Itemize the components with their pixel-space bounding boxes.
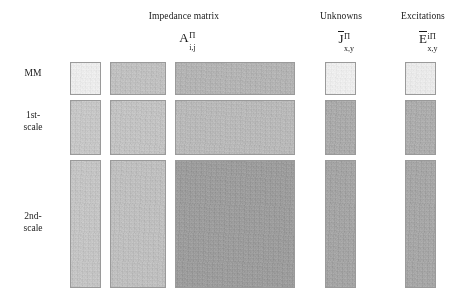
symbol-base: J <box>338 31 343 45</box>
block-texture <box>326 63 355 94</box>
block-texture <box>176 161 294 287</box>
column-header-label: Unknowns <box>301 12 381 22</box>
column-header-label: Impedance matrix <box>104 12 264 22</box>
block-texture <box>71 63 100 94</box>
symbol-base: A <box>179 30 188 45</box>
symbol-superscript: iΠ <box>427 32 436 41</box>
block-texture <box>326 161 355 287</box>
matrix-block-mm-a-1 <box>70 62 101 95</box>
matrix-block-s2-a-1 <box>70 160 101 288</box>
row-label-mm: MM <box>2 68 64 80</box>
block-texture <box>176 63 294 94</box>
symbol-base: E <box>419 31 427 45</box>
symbol-superscript: Π <box>344 32 350 41</box>
block-texture <box>406 101 435 154</box>
column-header-label: Excitations <box>381 12 465 22</box>
matrix-block-s2-a-3 <box>175 160 295 288</box>
block-texture <box>71 101 100 154</box>
symbol-a-pi-ij: AΠi,j <box>179 31 188 45</box>
matrix-block-s2-a-2 <box>110 160 166 288</box>
column-header-excitations: Excitations EiΠx,y <box>381 12 465 46</box>
matrix-block-s2-e <box>405 160 436 288</box>
symbol-j-bar-pi-xy: JΠx,y <box>338 31 343 46</box>
block-texture <box>71 161 100 287</box>
matrix-block-s1-j <box>325 100 356 155</box>
column-header-symbol: EiΠx,y <box>381 31 465 46</box>
matrix-block-s1-e <box>405 100 436 155</box>
column-header-unknowns: Unknowns JΠx,y <box>301 12 381 46</box>
block-texture <box>111 101 165 154</box>
matrix-block-s1-a-2 <box>110 100 166 155</box>
block-texture <box>111 63 165 94</box>
matrix-block-mm-a-2 <box>110 62 166 95</box>
symbol-e-bar-ipi-xy: EiΠx,y <box>419 31 427 46</box>
row-label-2nd-scale: 2nd- scale <box>2 211 64 235</box>
block-texture <box>176 101 294 154</box>
column-header-symbol: JΠx,y <box>301 31 381 46</box>
symbol-subscript: i,j <box>189 44 195 52</box>
matrix-block-s2-j <box>325 160 356 288</box>
multiscale-matrix-structure-figure: Impedance matrix AΠi,j Unknowns JΠx,y Ex… <box>0 0 467 302</box>
matrix-block-s1-a-1 <box>70 100 101 155</box>
symbol-superscript: Π <box>189 31 195 40</box>
column-header-symbol: AΠi,j <box>104 31 264 45</box>
matrix-block-mm-a-3 <box>175 62 295 95</box>
row-label-1st-scale: 1st- scale <box>2 110 64 134</box>
matrix-block-mm-j <box>325 62 356 95</box>
block-texture <box>111 161 165 287</box>
matrix-block-s1-a-3 <box>175 100 295 155</box>
block-texture <box>326 101 355 154</box>
column-header-impedance-matrix: Impedance matrix AΠi,j <box>104 12 264 45</box>
block-texture <box>406 63 435 94</box>
symbol-subscript: x,y <box>427 45 437 53</box>
matrix-block-mm-e <box>405 62 436 95</box>
symbol-subscript: x,y <box>344 45 354 53</box>
block-texture <box>406 161 435 287</box>
